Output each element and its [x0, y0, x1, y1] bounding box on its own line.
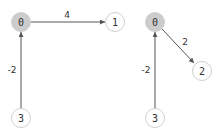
- node-0: 0: [146, 13, 165, 32]
- node-1-label: 1: [112, 17, 118, 28]
- node-3: 3: [146, 109, 165, 128]
- edge-weight-0-2: 2: [182, 37, 188, 47]
- graph-diagram: 4 -2 0 1 3 2 -2 0 2 3: [0, 0, 221, 137]
- graph-a: 4 -2 0 1 3: [8, 10, 125, 128]
- node-0-label: 0: [152, 17, 158, 28]
- edge-weight-3-0: -2: [142, 65, 151, 75]
- node-0: 0: [12, 13, 31, 32]
- node-3-label: 3: [18, 113, 24, 124]
- node-2-label: 2: [199, 66, 205, 77]
- node-3-label: 3: [152, 113, 158, 124]
- edge-0-to-2: [162, 29, 194, 63]
- node-2: 2: [193, 62, 212, 81]
- node-1: 1: [106, 13, 125, 32]
- graph-b: 2 -2 0 2 3: [142, 13, 212, 128]
- node-3: 3: [12, 109, 31, 128]
- edge-weight-0-1: 4: [64, 10, 70, 20]
- edge-weight-3-0: -2: [8, 65, 17, 75]
- node-0-label: 0: [18, 17, 24, 28]
